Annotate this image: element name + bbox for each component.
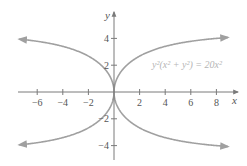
x-axis-label: x: [231, 94, 237, 106]
x-tick-label: −2: [83, 97, 94, 108]
y-axis-label: y: [104, 9, 110, 21]
x-tick-label: 2: [137, 97, 142, 108]
y-tick-label: 2: [104, 60, 109, 71]
y-tick-label: −2: [98, 113, 109, 124]
x-tick-label: 4: [163, 97, 168, 108]
y-tick-label: −4: [98, 140, 109, 151]
y-tick-label: 4: [104, 33, 109, 44]
equation-annotation: y²(x² + y²) = 20x²: [151, 59, 223, 71]
x-tick-label: 8: [214, 97, 219, 108]
x-tick-label: −4: [57, 97, 68, 108]
x-tick-label: 6: [188, 97, 193, 108]
curve-lower-right: [114, 92, 228, 147]
x-tick-label: −6: [32, 97, 43, 108]
curve-upper-left: [19, 39, 114, 92]
chart: −6−4−22468 42−2−4 x y y²(x² + y²) = 20x²: [0, 0, 247, 166]
